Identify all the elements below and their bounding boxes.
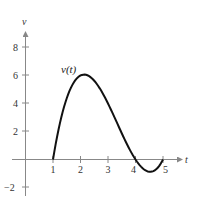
x-tick-label-2: 2 [78,164,83,175]
y-tick-label-6: 6 [13,70,18,81]
y-tick-label-neg2: −2 [4,182,15,193]
chart: v t 8 6 4 2 −2 1 2 3 4 5 v(t) [0,0,197,210]
x-axis-label: t [185,154,188,165]
x-tick-label-4: 4 [131,164,136,175]
x-tick-label-3: 3 [106,164,111,175]
y-tick-label-4: 4 [13,98,18,109]
y-axis-label: v [22,16,27,27]
curve-label: v(t) [61,63,77,76]
y-tick-label-2: 2 [13,126,18,137]
y-tick-label-8: 8 [13,42,18,53]
x-tick-label-1: 1 [51,164,56,175]
x-tick-label-5: 5 [163,164,168,175]
